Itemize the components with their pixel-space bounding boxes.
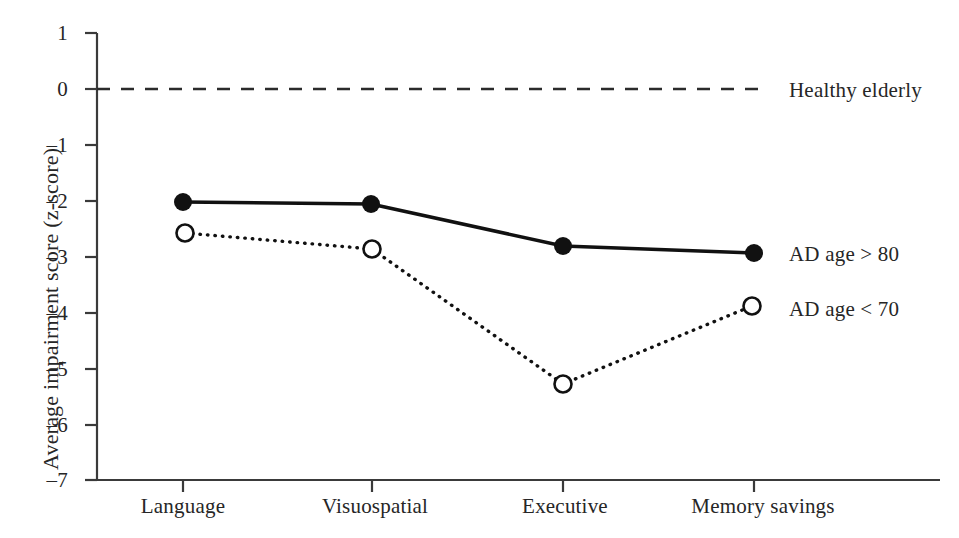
y-tick-label-minus-2: –2	[22, 189, 68, 214]
x-tick-label-memory-savings: Memory savings	[691, 494, 834, 519]
y-tick-label-minus-7: –7	[22, 468, 68, 493]
y-tick-label-1: 1	[22, 21, 68, 46]
y-axis-ticks	[85, 33, 97, 480]
y-tick-label-0: 0	[22, 77, 68, 102]
y-tick-label-minus-3: –3	[22, 245, 68, 270]
y-tick-label-minus-5: –5	[22, 357, 68, 382]
series-line-ad-over-80	[183, 202, 754, 253]
y-tick-label-minus-4: –4	[22, 301, 68, 326]
x-tick-label-executive: Executive	[522, 494, 608, 519]
x-axis-ticks	[183, 480, 754, 492]
label-ad-over-80: AD age > 80	[789, 242, 899, 267]
y-tick-label-minus-1: –1	[22, 133, 68, 158]
series-line-ad-under-70	[185, 233, 752, 384]
chart-figure: Average impairment score (z-score) 1 0 –…	[0, 0, 959, 538]
y-tick-label-minus-6: –6	[22, 413, 68, 438]
x-tick-label-visuospatial: Visuospatial	[322, 494, 428, 519]
label-healthy-elderly: Healthy elderly	[789, 78, 922, 103]
x-tick-label-language: Language	[141, 494, 225, 519]
label-ad-under-70: AD age < 70	[789, 297, 899, 322]
